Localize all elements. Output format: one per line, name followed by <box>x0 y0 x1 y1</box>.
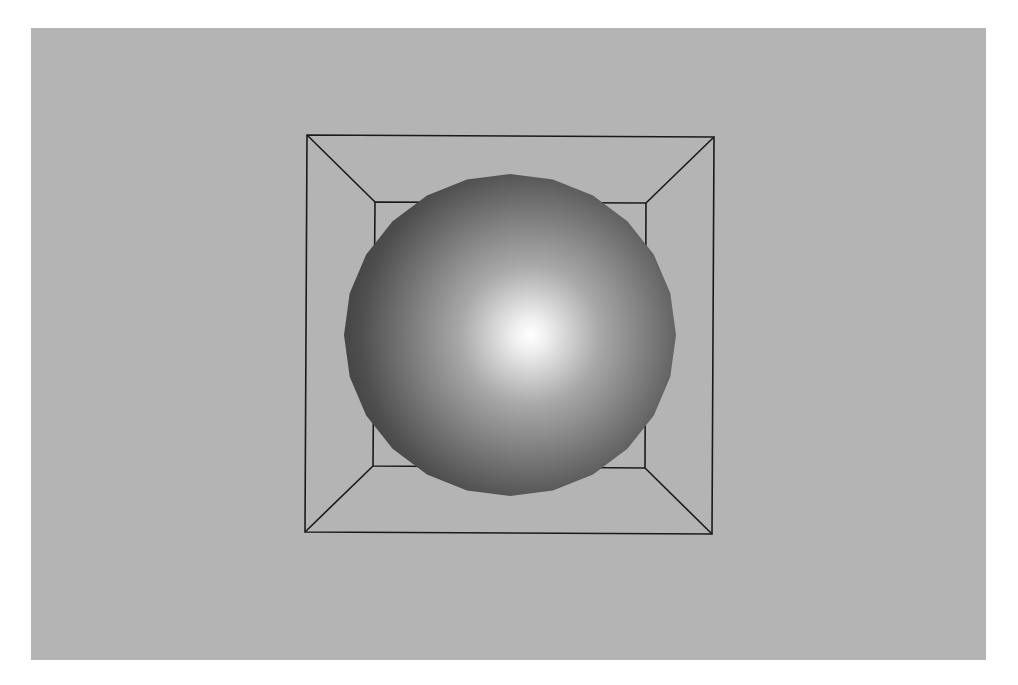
render-canvas <box>0 0 1018 685</box>
3d-scene <box>0 0 1018 685</box>
shaded-sphere[interactable] <box>344 174 676 496</box>
edge-bottom-right <box>645 468 712 534</box>
edge-top-right <box>646 137 714 203</box>
edge-bottom-left <box>305 466 373 532</box>
edge-top-left <box>307 135 375 202</box>
